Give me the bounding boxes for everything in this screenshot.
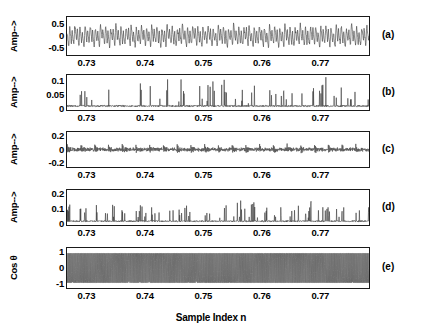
y-tick-label: 0 (28, 30, 64, 41)
x-tick-label: 0.77 (304, 112, 336, 123)
x-tick-label: 0.76 (246, 169, 278, 180)
y-tick-label: 0.1 (28, 75, 64, 86)
x-tick-label: 0.73 (70, 169, 102, 180)
y-tick-label: 0 (28, 103, 64, 114)
x-tick-label: 0.73 (70, 57, 102, 68)
y-tick-label: 0.5 (28, 18, 64, 29)
x-tick-label: 0.77 (304, 169, 336, 180)
signal-trace (67, 201, 369, 222)
y-tick-label: -1 (28, 278, 64, 289)
x-tick-label: 0.74 (129, 290, 161, 301)
panel-letter-d: (d) (382, 201, 395, 212)
x-tick-label: 0.75 (187, 290, 219, 301)
plot-area-a (66, 16, 370, 56)
y-tick-label: 1 (28, 246, 64, 257)
y-tick-label: -0.2 (28, 157, 64, 168)
plot-area-d (66, 189, 370, 226)
y-tick-label: 0.2 (28, 130, 64, 141)
x-axis-label: Sample Index n (0, 312, 422, 323)
signal-trace (67, 144, 369, 154)
panel-letter-b: (b) (382, 86, 395, 97)
x-tick-label: 0.75 (187, 169, 219, 180)
y-tick-label: 0 (28, 218, 64, 229)
x-tick-label: 0.76 (246, 112, 278, 123)
x-tick-label: 0.73 (70, 112, 102, 123)
figure-multipanel-timeseries: Amp-->0.50-0.50.730.740.750.760.77(a)Amp… (0, 0, 422, 334)
x-tick-label: 0.77 (304, 57, 336, 68)
panel-letter-e: (e) (382, 261, 394, 272)
y-axis-label-e: Cos θ (8, 245, 19, 291)
x-tick-label: 0.74 (129, 227, 161, 238)
y-tick-label: 0.2 (28, 188, 64, 199)
x-tick-label: 0.76 (246, 227, 278, 238)
x-tick-label: 0.73 (70, 227, 102, 238)
plot-area-e (66, 247, 370, 289)
y-tick-label: 0.05 (28, 89, 64, 100)
x-tick-label: 0.75 (187, 57, 219, 68)
y-tick-label: -0.5 (28, 42, 64, 53)
x-tick-label: 0.74 (129, 169, 161, 180)
plot-area-c (66, 131, 370, 168)
x-tick-label: 0.77 (304, 290, 336, 301)
y-tick-label: 0 (28, 262, 64, 273)
y-axis-label-c: Amp--> (8, 129, 19, 170)
signal-trace (67, 253, 369, 283)
y-axis-label-b: Amp--> (8, 72, 19, 113)
panel-letter-c: (c) (382, 143, 394, 154)
x-tick-label: 0.73 (70, 290, 102, 301)
x-tick-label: 0.74 (129, 112, 161, 123)
x-tick-label: 0.76 (246, 57, 278, 68)
plot-area-b (66, 74, 370, 111)
x-tick-label: 0.77 (304, 227, 336, 238)
x-tick-label: 0.74 (129, 57, 161, 68)
y-tick-label: 0 (28, 144, 64, 155)
signal-trace (67, 23, 369, 48)
y-axis-label-a: Amp--> (8, 14, 19, 58)
y-tick-label: 0.1 (28, 203, 64, 214)
x-tick-label: 0.75 (187, 112, 219, 123)
signal-trace (67, 77, 369, 107)
x-tick-label: 0.75 (187, 227, 219, 238)
panel-letter-a: (a) (382, 29, 394, 40)
x-tick-label: 0.76 (246, 290, 278, 301)
y-axis-label-d: Amp--> (8, 187, 19, 228)
